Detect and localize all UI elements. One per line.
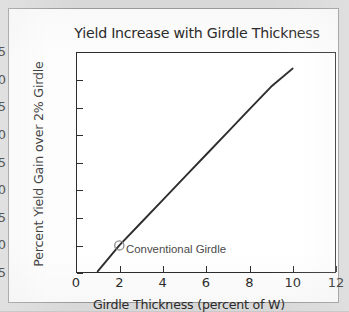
y-tick-label: 30: [0, 72, 6, 87]
y-tick-label: 5: [0, 210, 6, 225]
y-axis-title-container: Percent Yield Gain over 2% Girdle: [31, 49, 49, 279]
x-tick-label: 10: [273, 275, 313, 290]
y-tick-label: 25: [0, 99, 6, 114]
chart-title: Yield Increase with Girdle Thickness: [59, 25, 335, 41]
x-tick-label: 12: [316, 275, 349, 290]
y-tick-label: 0: [0, 237, 6, 252]
x-tick-mark: [336, 266, 337, 272]
y-tick-label: 20: [0, 127, 6, 142]
x-axis-title: Girdle Thickness (percent of W): [49, 297, 329, 312]
figure-panel: Yield Increase with Girdle Thickness Per…: [8, 8, 339, 303]
series-polyline: [98, 69, 293, 272]
x-tick-label: 2: [99, 275, 139, 290]
x-tick-label: 4: [143, 275, 183, 290]
x-tick-label: 6: [186, 275, 226, 290]
data-series-line: [76, 52, 336, 273]
y-axis-title: Percent Yield Gain over 2% Girdle: [31, 49, 46, 279]
y-tick-label: 10: [0, 182, 6, 197]
y-tick-label: 15: [0, 155, 6, 170]
y-tick-label: -5: [0, 265, 6, 280]
x-tick-label: 0: [56, 275, 96, 290]
x-tick-label: 8: [229, 275, 269, 290]
y-tick-label: 35: [0, 44, 6, 59]
conventional-girdle-label: Conventional Girdle: [126, 243, 226, 255]
